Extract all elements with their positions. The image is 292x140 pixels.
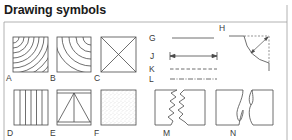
label-n: N (230, 128, 236, 138)
frame (4, 5, 287, 140)
symbol-f (101, 90, 136, 125)
symbol-n (216, 90, 273, 125)
symbol-j (170, 52, 217, 60)
label-k: K (149, 64, 155, 74)
label-a: A (6, 73, 12, 83)
label-j: J (150, 51, 154, 61)
symbol-a (0, 0, 59, 83)
symbol-h (229, 36, 269, 71)
label-e: E (50, 128, 56, 138)
symbol-e (57, 90, 91, 125)
label-l: L (149, 74, 154, 84)
drawing-symbols-figure: A B C D E F G H J K L M N (0, 0, 292, 140)
symbol-c (101, 37, 136, 72)
label-h: H (219, 23, 225, 33)
label-b: B (50, 73, 56, 83)
label-m: M (163, 128, 170, 138)
symbol-m (155, 90, 205, 125)
label-g: G (149, 33, 156, 43)
label-c: C (94, 73, 100, 83)
label-d: D (7, 128, 13, 138)
symbol-d (14, 90, 48, 125)
label-f: F (94, 128, 99, 138)
